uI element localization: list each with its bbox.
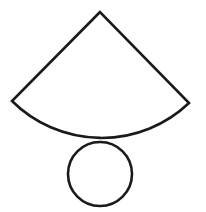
diagram-canvas: [0, 0, 206, 212]
sector-shape: [12, 12, 189, 138]
circle-shape: [68, 142, 132, 206]
